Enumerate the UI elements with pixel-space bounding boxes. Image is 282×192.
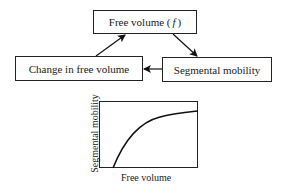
plot-y-axis-label: Segmental mobility bbox=[89, 84, 100, 184]
node-free-volume: Free volume (f) bbox=[93, 10, 197, 34]
arrow-free-volume-to-segmental-mobility bbox=[173, 34, 197, 56]
node-change-in-free-volume: Change in free volume bbox=[15, 56, 143, 81]
plot-frame bbox=[100, 102, 198, 168]
plot-x-axis-label: Free volume bbox=[121, 172, 171, 183]
node-free-volume-label: Free volume ( bbox=[109, 16, 171, 28]
node-free-volume-close: ) bbox=[178, 16, 182, 28]
mobility-curve bbox=[113, 111, 198, 168]
node-segmental-mobility: Segmental mobility bbox=[162, 57, 272, 82]
symbol-f: f bbox=[172, 16, 175, 28]
arrow-change-to-free-volume bbox=[96, 35, 125, 56]
node-change-label: Change in free volume bbox=[29, 63, 130, 75]
node-segmental-label: Segmental mobility bbox=[174, 64, 260, 76]
